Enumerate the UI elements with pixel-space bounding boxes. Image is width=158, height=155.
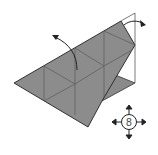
arrow-left-icon: [112, 119, 121, 125]
arrow-right-icon: [137, 119, 146, 125]
step-indicator: 8: [112, 105, 146, 139]
step-number: 8: [126, 117, 132, 128]
origami-diagram: 8: [0, 0, 158, 155]
arrow-down-icon: [126, 130, 132, 139]
arrow-up-icon: [126, 105, 132, 114]
